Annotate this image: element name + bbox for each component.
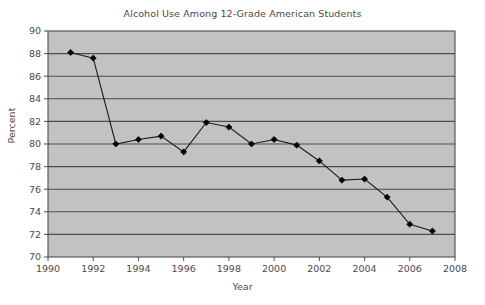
y-tick-label: 80: [29, 138, 41, 149]
x-tick-label: 1998: [217, 263, 241, 274]
x-tick-labels-group: 1990199219941996199820002002200420062008: [36, 263, 467, 274]
x-tick-label: 2008: [443, 263, 467, 274]
x-tick-label: 2004: [352, 263, 376, 274]
y-tick-label: 88: [29, 48, 41, 59]
plot-svg: 7072747678808284868890 19901992199419961…: [0, 0, 485, 305]
x-tick-label: 1996: [172, 263, 196, 274]
y-tick-label: 72: [29, 229, 41, 240]
y-tick-labels-group: 7072747678808284868890: [29, 25, 41, 262]
x-tick-marks-group: [48, 257, 455, 261]
y-tick-label: 84: [29, 93, 41, 104]
y-tick-label: 70: [29, 251, 41, 262]
x-tick-label: 2000: [262, 263, 286, 274]
y-tick-marks-group: [44, 31, 48, 257]
x-tick-label: 1990: [36, 263, 60, 274]
y-tick-label: 76: [29, 184, 41, 195]
x-tick-label: 1994: [126, 263, 150, 274]
x-tick-label: 2006: [398, 263, 422, 274]
y-tick-label: 78: [29, 161, 41, 172]
y-tick-label: 86: [29, 71, 41, 82]
y-tick-label: 74: [29, 206, 41, 217]
y-tick-label: 82: [29, 116, 41, 127]
chart-container: Alcohol Use Among 12-Grade American Stud…: [0, 0, 485, 305]
x-tick-label: 2002: [307, 263, 331, 274]
x-tick-label: 1992: [81, 263, 105, 274]
y-tick-label: 90: [29, 25, 41, 36]
